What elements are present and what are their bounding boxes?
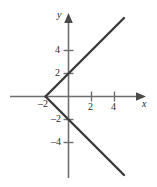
curve-upper-ray (46, 18, 125, 97)
graph-figure: y x 2 4 4 2 –2 –4 –2 (0, 0, 157, 187)
coordinate-plane (0, 0, 157, 187)
y-tick-label-minus-4: –4 (51, 137, 61, 147)
x-axis-label: x (142, 99, 146, 109)
y-tick-label-minus-2: –2 (51, 114, 61, 124)
y-axis-arrow-icon (64, 13, 73, 23)
y-axis-label: y (57, 10, 61, 20)
y-tick-label-2: 2 (55, 68, 60, 78)
x-tick-label-2: 2 (88, 102, 93, 112)
y-tick-label-4: 4 (55, 45, 60, 55)
vertex-label-minus-2: –2 (38, 99, 48, 109)
x-tick-label-4: 4 (111, 102, 116, 112)
